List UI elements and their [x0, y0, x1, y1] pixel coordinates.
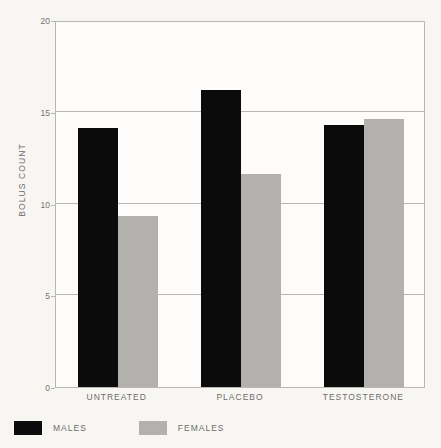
y-axis-label: BOLUS COUNT [17, 120, 27, 240]
y-axis-tick-label: 15 [16, 108, 50, 118]
legend-swatch-females [139, 421, 167, 435]
legend-entry-males: MALES [14, 421, 87, 435]
x-axis-category-label: UNTREATED [86, 392, 146, 402]
plot-area [55, 21, 425, 388]
y-axis-tick-mark [51, 388, 55, 389]
bar-placebo-females [241, 174, 281, 387]
y-axis-tick-label: 0 [16, 383, 50, 393]
bar-chart-figure: BOLUS COUNT 05101520 UNTREATEDPLACEBOTES… [0, 0, 441, 448]
bar-testosterone-males [324, 125, 364, 387]
legend-entry-females: FEMALES [139, 421, 225, 435]
bar-untreated-males [78, 128, 118, 387]
y-axis-tick-label: 20 [16, 16, 50, 26]
legend-label: FEMALES [178, 423, 225, 433]
y-axis-tick-label: 5 [16, 291, 50, 301]
chart-legend: MALESFEMALES [14, 421, 225, 435]
y-axis-tick-label: 10 [16, 200, 50, 210]
bar-untreated-females [118, 216, 158, 387]
x-axis-category-label: PLACEBO [216, 392, 263, 402]
x-axis-category-label: TESTOSTERONE [323, 392, 404, 402]
bar-testosterone-females [364, 119, 404, 387]
legend-swatch-males [14, 421, 42, 435]
legend-label: MALES [53, 423, 87, 433]
bar-placebo-males [201, 90, 241, 387]
